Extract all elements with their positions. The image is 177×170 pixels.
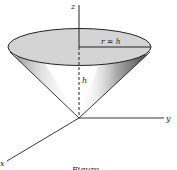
x-axis bbox=[7, 118, 79, 161]
height-label: h bbox=[82, 76, 87, 85]
x-axis-label: x bbox=[0, 159, 5, 168]
cone-diagram: z y x r = h h Figure bbox=[0, 0, 177, 170]
y-axis-label: y bbox=[165, 114, 171, 123]
figure-caption: Figure bbox=[71, 165, 99, 170]
radius-label: r = h bbox=[101, 37, 121, 46]
z-axis-label: z bbox=[70, 2, 76, 11]
